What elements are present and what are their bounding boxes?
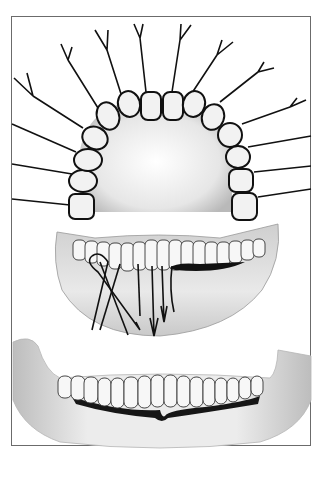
upper-arch-panel — [12, 24, 311, 220]
tooth — [163, 92, 183, 120]
lower-jaw-nerves-panel — [55, 224, 278, 336]
tooth — [69, 170, 97, 192]
tooth — [218, 123, 242, 147]
tooth — [74, 149, 102, 171]
tooth — [141, 92, 161, 120]
tooth — [232, 193, 257, 220]
tooth — [69, 194, 94, 219]
dental-illustration — [0, 0, 320, 484]
tooth — [229, 169, 253, 192]
tooth — [226, 146, 250, 168]
mandible-panel — [13, 339, 311, 448]
